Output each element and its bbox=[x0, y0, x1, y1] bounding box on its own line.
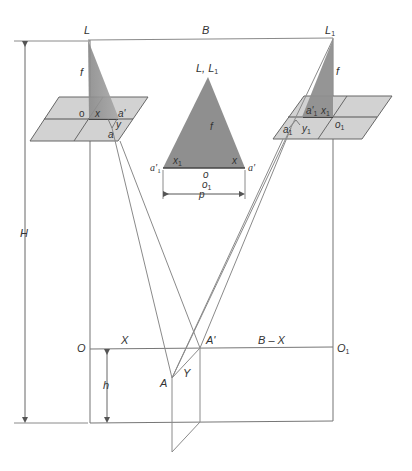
label-a-prime-left: a' bbox=[118, 109, 125, 119]
label-x-left: x bbox=[95, 109, 100, 119]
ground-line bbox=[90, 421, 333, 423]
label-O1: O1 bbox=[337, 343, 349, 355]
datum-line-O-O1 bbox=[90, 347, 333, 349]
label-L1-sub: 1 bbox=[331, 30, 335, 37]
label-center-top: L, L1 bbox=[196, 63, 218, 75]
label-A-prime: A' bbox=[206, 335, 215, 346]
label-x1-right: x1 bbox=[321, 106, 330, 117]
label-center-top-sub: 1 bbox=[214, 68, 218, 75]
left-focal-triangle bbox=[88, 40, 119, 119]
label-L1: L1 bbox=[325, 25, 335, 37]
label-a1-prime-right-sub: 1 bbox=[313, 110, 317, 117]
label-o-left: o bbox=[79, 109, 85, 119]
label-O1-text: O bbox=[337, 342, 346, 354]
label-a-left: a bbox=[108, 130, 114, 140]
air-base-line bbox=[88, 38, 333, 40]
label-h: h bbox=[103, 380, 109, 391]
label-B: B bbox=[202, 25, 209, 36]
label-y1-right: y1 bbox=[302, 124, 311, 135]
label-x1-center-sub: 1 bbox=[178, 160, 182, 167]
label-a-prime-center: a' bbox=[248, 163, 255, 173]
parallax-diagram: L B L1 H f f o x a' y a a'1 x1 o1 a1 y1 … bbox=[0, 0, 412, 471]
label-O: O bbox=[77, 343, 86, 354]
label-f-right: f bbox=[336, 66, 339, 77]
label-X: X bbox=[121, 335, 128, 346]
label-L: L bbox=[84, 25, 90, 36]
label-x-center: x bbox=[232, 156, 237, 166]
label-o1-right-sub: 1 bbox=[341, 124, 345, 131]
label-H: H bbox=[20, 228, 28, 239]
label-a1-right: a1 bbox=[283, 125, 292, 136]
label-p: p bbox=[199, 190, 205, 200]
label-O1-sub: 1 bbox=[346, 348, 350, 355]
label-o1-center-sub: 1 bbox=[208, 184, 212, 191]
label-f-left: f bbox=[80, 67, 83, 78]
label-Y: Y bbox=[183, 368, 190, 379]
ground-point-geometry bbox=[172, 348, 200, 452]
label-a1-prime-right: a'1 bbox=[306, 106, 317, 117]
label-a1-right-sub: 1 bbox=[289, 129, 293, 136]
label-a1-center-sub: 1 bbox=[157, 167, 161, 175]
label-f-center: f bbox=[210, 122, 213, 132]
label-center-top-text: L, L bbox=[196, 62, 214, 74]
label-x1-center: x1 bbox=[173, 156, 182, 167]
label-A: A bbox=[160, 378, 167, 389]
label-o1-right: o1 bbox=[335, 120, 344, 131]
label-B-minus-X: B – X bbox=[258, 335, 285, 346]
label-x1-right-sub: 1 bbox=[326, 110, 330, 117]
label-y-left: y bbox=[116, 120, 121, 130]
label-y1-right-sub: 1 bbox=[307, 128, 311, 135]
label-a1-center: a'1 bbox=[150, 163, 161, 175]
